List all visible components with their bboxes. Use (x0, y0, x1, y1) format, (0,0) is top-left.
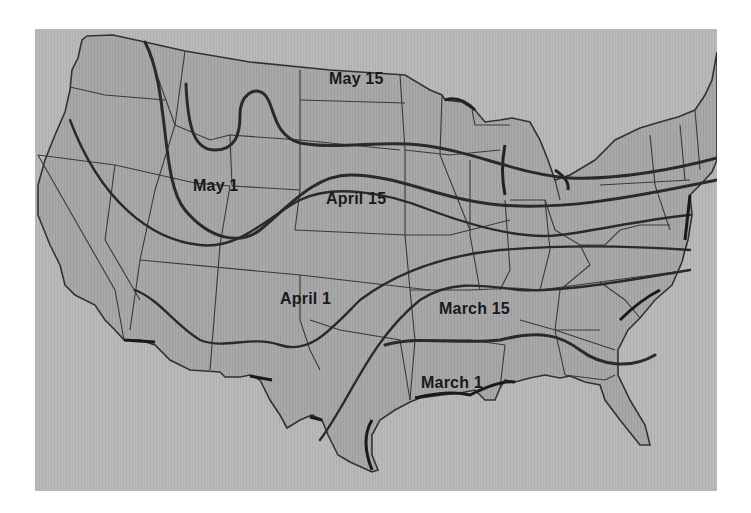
frost-label-march-1: March 1 (421, 374, 483, 392)
frost-label-may-1: May 1 (193, 177, 238, 195)
frost-label-may-15: May 15 (329, 70, 384, 88)
frost-label-april-1: April 1 (280, 290, 331, 308)
frost-date-map: May 15 May 1 April 15 April 1 March 15 M… (35, 29, 717, 491)
us-map-svg (35, 29, 717, 491)
frost-label-march-15: March 15 (439, 300, 510, 318)
frost-label-april-15: April 15 (326, 190, 386, 208)
